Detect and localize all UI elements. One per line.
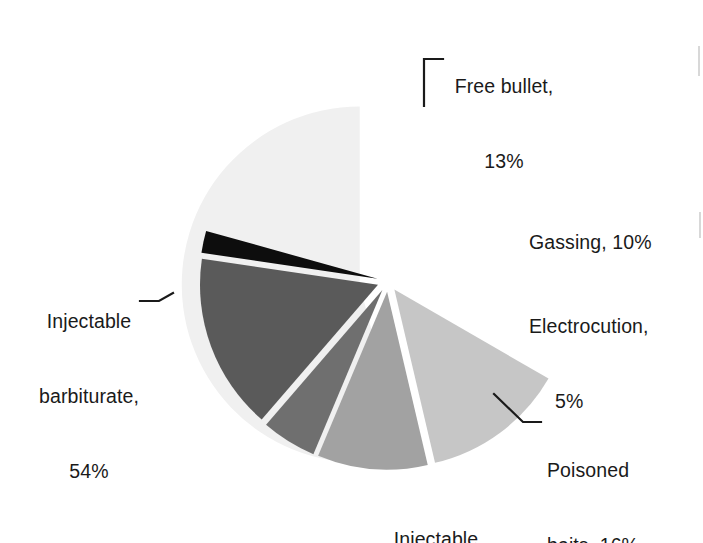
- pie-chart: Injectable barbiturate, 54%Free bullet, …: [0, 0, 703, 543]
- scan-edge-artifact-middle: [699, 212, 701, 238]
- scan-edge-artifact-top: [698, 46, 700, 76]
- slice-label-injectable-barbiturate-line3: 54%: [6, 459, 172, 484]
- slice-label-electrocution-line1: Electrocution,: [529, 314, 703, 339]
- slice-label-injectable-barbiturate: Injectable barbiturate, 54%: [6, 259, 172, 534]
- slice-label-poisoned-baits-line1: Poisoned: [547, 458, 703, 483]
- slice-label-poisoned-baits: Poisoned baits, 16%: [547, 408, 703, 543]
- slice-label-free-bullet-line1: Free bullet,: [432, 74, 576, 99]
- slice-label-injectable-others: Injectable others, 2%: [338, 477, 534, 543]
- slice-label-free-bullet-line2: 13%: [432, 149, 576, 174]
- slice-label-injectable-others-line1: Injectable: [338, 527, 534, 543]
- slice-label-injectable-barbiturate-line2: barbiturate,: [6, 384, 172, 409]
- slice-label-gassing-line1: Gassing, 10%: [529, 230, 699, 255]
- slice-label-poisoned-baits-line2: baits, 16%: [547, 533, 703, 543]
- slice-label-injectable-barbiturate-line1: Injectable: [6, 309, 172, 334]
